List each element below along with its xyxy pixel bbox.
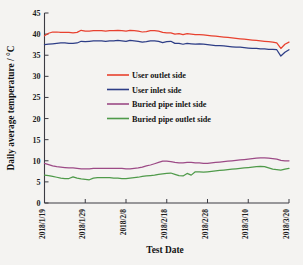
y-tick-label: 45 [33, 9, 41, 18]
x-tick-label: 2018/3/10 [241, 209, 250, 239]
y-tick-label: 35 [33, 51, 41, 60]
legend-label: User outlet side [132, 71, 186, 80]
temperature-line-chart: 051015202530354045 2018/1/192018/1/29201… [0, 0, 303, 265]
x-tick-label: 2018/1/19 [38, 209, 47, 239]
x-tick-label: 2018/2/18 [160, 209, 169, 239]
x-axis-title: Test Date [146, 245, 183, 255]
x-tick-label: 2018/1/29 [78, 209, 87, 239]
chart-canvas: 051015202530354045 2018/1/192018/1/29201… [0, 0, 303, 265]
legend-label: Buried pipe inlet side [132, 100, 207, 109]
y-tick-label: 10 [33, 157, 41, 166]
legend-label: User inlet side [132, 86, 182, 95]
y-tick-label: 25 [33, 93, 41, 102]
y-axis-title: Daily average temperature / °C [6, 45, 16, 170]
y-tick-label: 0 [37, 199, 41, 208]
x-tick-label: 2018/3/20 [282, 209, 291, 239]
x-tick-label: 2018/2/8 [119, 209, 128, 236]
y-tick-label: 20 [33, 115, 41, 124]
y-tick-label: 30 [33, 72, 41, 81]
y-tick-label: 15 [33, 136, 41, 145]
x-tick-label: 2018/2/28 [201, 209, 210, 239]
y-tick-label: 5 [37, 178, 41, 187]
y-tick-label: 40 [33, 30, 41, 39]
legend-label: Buried pipe outlet side [132, 115, 211, 124]
